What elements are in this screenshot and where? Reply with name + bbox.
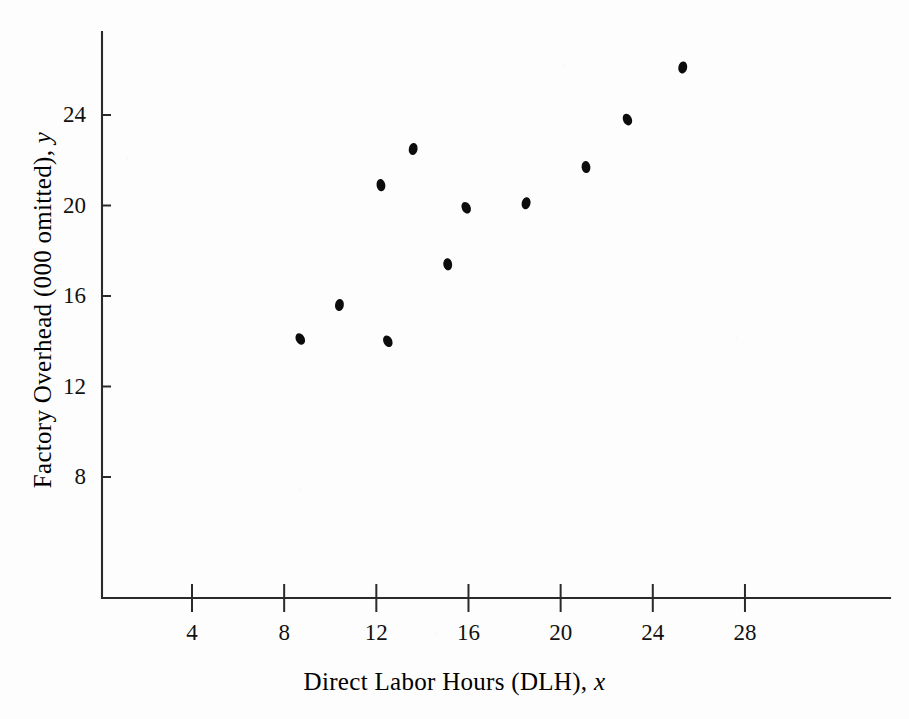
data-point <box>460 200 473 215</box>
tick-marks-group <box>101 115 745 612</box>
data-points-group <box>294 61 689 349</box>
data-point <box>381 334 394 349</box>
data-point <box>621 112 634 127</box>
x-tick-label: 24 <box>641 620 664 646</box>
x-axis-title: Direct Labor Hours (DLH), x <box>0 668 909 696</box>
y-axis-title: Factory Overhead (000 omitted), y <box>29 75 57 545</box>
data-point <box>294 332 307 347</box>
x-tick-label: 16 <box>457 620 480 646</box>
data-point <box>443 258 453 271</box>
x-tick-label: 20 <box>549 620 572 646</box>
x-tick-label: 8 <box>278 620 290 646</box>
axes-group <box>102 32 890 598</box>
data-point <box>581 160 591 173</box>
y-axis-title-variable: y <box>29 132 56 143</box>
data-point <box>521 196 532 210</box>
x-axis-title-text: Direct Labor Hours (DLH), <box>304 668 588 695</box>
x-axis-title-variable: x <box>594 668 605 695</box>
plot-canvas <box>0 0 909 719</box>
data-point <box>408 142 419 156</box>
data-point <box>677 61 688 75</box>
x-tick-label: 12 <box>365 620 388 646</box>
data-point <box>334 298 345 311</box>
x-tick-label: 4 <box>186 620 198 646</box>
y-axis-title-text: Factory Overhead (000 omitted), <box>29 150 56 488</box>
scatter-plot-figure: 481216202428812162024 Direct Labor Hours… <box>0 0 909 719</box>
x-tick-label: 28 <box>733 620 756 646</box>
data-point <box>376 178 387 191</box>
